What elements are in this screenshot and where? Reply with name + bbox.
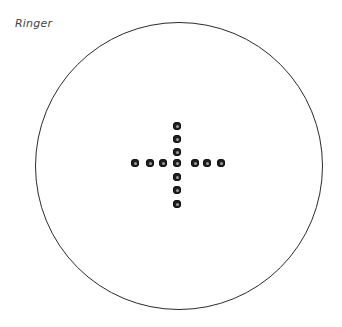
marble — [203, 159, 211, 167]
marble — [159, 159, 167, 167]
marble — [173, 186, 181, 194]
marble — [173, 200, 181, 208]
marble — [173, 135, 181, 143]
marble — [173, 148, 181, 156]
marble — [146, 159, 154, 167]
marble — [173, 122, 181, 130]
ringer-diagram — [0, 0, 342, 327]
marble — [173, 173, 181, 181]
marble — [173, 159, 181, 167]
marble — [217, 159, 225, 167]
marble — [131, 159, 139, 167]
marble — [191, 159, 199, 167]
